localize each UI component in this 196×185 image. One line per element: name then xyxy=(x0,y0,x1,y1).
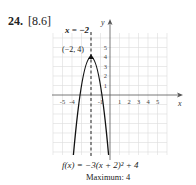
svg-text:3: 3 xyxy=(137,98,140,105)
svg-text:3: 3 xyxy=(104,63,107,70)
x-axis-label: x xyxy=(177,99,182,108)
svg-text:1: 1 xyxy=(104,82,107,89)
svg-text:1: 1 xyxy=(118,98,121,105)
svg-text:5: 5 xyxy=(104,44,107,51)
parabola-graph: x y -5 -4 -1 1 2 3 4 5 1 2 3 4 5 xyxy=(0,0,196,185)
svg-text:2: 2 xyxy=(104,72,107,79)
svg-text:-5: -5 xyxy=(60,98,65,105)
vertex-label: (−2, 4) xyxy=(62,45,84,54)
x-tick-labels: -5 -4 -1 1 2 3 4 5 xyxy=(60,98,159,105)
svg-text:4: 4 xyxy=(146,98,150,105)
vertex-point-icon xyxy=(88,54,94,59)
y-axis-label: y xyxy=(100,18,105,27)
svg-text:2: 2 xyxy=(127,98,130,105)
function-label: f(x) = −3(x + 2)² + 4 xyxy=(62,160,162,170)
axes xyxy=(52,19,183,160)
axis-of-symmetry-label: x = −2 xyxy=(65,25,89,35)
maximum-caption: Maximum: 4 xyxy=(86,172,130,182)
svg-text:-4: -4 xyxy=(69,98,75,105)
svg-text:5: 5 xyxy=(156,98,159,105)
